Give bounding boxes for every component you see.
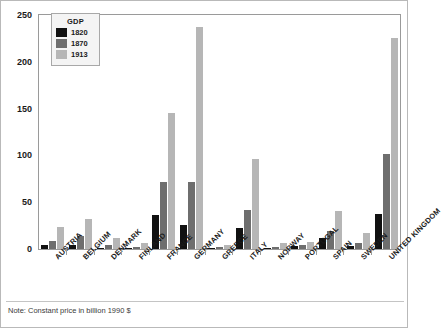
x-axis-tick-mark xyxy=(94,250,95,255)
x-axis-tick-mark xyxy=(260,250,261,255)
bar xyxy=(272,247,279,249)
legend-color-swatch xyxy=(56,28,67,37)
bar xyxy=(244,210,251,249)
bar xyxy=(41,245,48,249)
x-axis-tick-mark xyxy=(66,250,67,255)
bar-group xyxy=(178,15,206,249)
x-axis-tick-mark xyxy=(316,250,317,255)
y-axis-tick-label: 150 xyxy=(17,103,32,115)
x-axis-tick-mark xyxy=(232,250,233,255)
bar xyxy=(252,159,259,249)
bar xyxy=(168,113,175,249)
x-axis-tick-mark xyxy=(288,250,289,255)
y-axis-tick-label: 100 xyxy=(17,149,32,161)
bar xyxy=(391,38,398,249)
bar-group xyxy=(289,15,317,249)
legend-entries: 182018701913 xyxy=(56,28,95,59)
bar-group xyxy=(206,15,234,249)
x-axis-tick-mark xyxy=(121,250,122,255)
y-axis-tick-label: 0 xyxy=(27,243,32,255)
y-axis: 050100150200250 xyxy=(1,1,38,250)
x-axis-tick-mark xyxy=(149,250,150,255)
bar xyxy=(49,241,56,249)
bar-group xyxy=(317,15,345,249)
legend-color-swatch xyxy=(56,39,67,48)
bar-group xyxy=(344,15,372,249)
bar xyxy=(216,247,223,249)
bar xyxy=(299,245,306,249)
bar xyxy=(105,245,112,249)
legend-entry: 1870 xyxy=(56,39,95,48)
bar xyxy=(133,247,140,249)
legend-title: GDP xyxy=(56,17,95,26)
bar xyxy=(196,27,203,249)
footnote-text: Note: Constant price in billion 1990 $ xyxy=(8,306,131,315)
footnote-divider xyxy=(6,301,404,302)
legend-entry-label: 1870 xyxy=(71,39,88,48)
bar-group xyxy=(261,15,289,249)
bar-group xyxy=(150,15,178,249)
y-axis-tick-label: 200 xyxy=(17,56,32,68)
x-axis-tick-mark xyxy=(177,250,178,255)
legend: GDP 182018701913 xyxy=(51,13,100,66)
legend-entry-label: 1913 xyxy=(71,50,88,59)
legend-entry: 1820 xyxy=(56,28,95,37)
x-axis-tick-mark xyxy=(205,250,206,255)
bar-group xyxy=(372,15,400,249)
x-axis-tick-mark xyxy=(371,250,372,255)
y-axis-tick-label: 50 xyxy=(22,196,32,208)
bar-group xyxy=(122,15,150,249)
bar-group xyxy=(233,15,261,249)
x-axis-tick-mark xyxy=(343,250,344,255)
legend-entry: 1913 xyxy=(56,50,95,59)
bar xyxy=(355,243,362,249)
legend-entry-label: 1820 xyxy=(71,28,88,37)
legend-color-swatch xyxy=(56,50,67,59)
y-axis-tick-label: 250 xyxy=(17,9,32,21)
